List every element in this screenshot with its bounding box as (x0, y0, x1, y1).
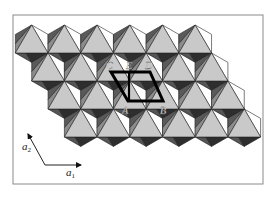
vertex-label-e: E (125, 60, 132, 71)
octahedral-layer-diagram: CEDAB a1 a2 (0, 0, 277, 198)
vertex-label-c: C (106, 60, 113, 71)
octahedra-layer (15, 25, 260, 146)
diagram-canvas: CEDAB a1 a2 (0, 0, 277, 198)
vertex-label-d: D (144, 60, 153, 71)
vertex-label-a: A (121, 105, 129, 116)
a1-axis-label: a1 (66, 166, 76, 180)
a2-axis-label: a2 (22, 140, 32, 154)
vertex-label-b: B (160, 105, 166, 116)
